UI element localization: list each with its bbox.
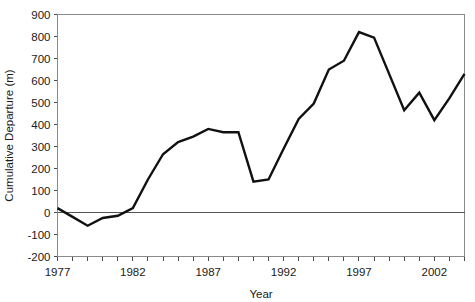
y-tick-label: 900 <box>31 9 50 21</box>
x-tick-label: 1992 <box>271 266 297 278</box>
y-tick-label: 600 <box>31 75 50 87</box>
x-tick-label: 1982 <box>120 266 146 278</box>
y-tick-label: -100 <box>27 229 50 241</box>
y-tick-label: 400 <box>31 119 50 131</box>
y-tick-label: 300 <box>31 141 50 153</box>
x-tick-label: 1977 <box>45 266 71 278</box>
x-tick-label: 1997 <box>346 266 372 278</box>
y-tick-label: 0 <box>44 207 50 219</box>
y-tick-label: 700 <box>31 53 50 65</box>
y-tick-label: 100 <box>31 185 50 197</box>
y-tick-label: 500 <box>31 97 50 109</box>
y-tick-label: 200 <box>31 163 50 175</box>
y-tick-label: -200 <box>27 251 50 263</box>
cumulative-departure-line-chart: 9008007006005004003002001000-100-200 197… <box>0 0 475 302</box>
x-tick-label: 2002 <box>422 266 448 278</box>
y-tick-label: 800 <box>31 31 50 43</box>
y-axis-title: Cumulative Departure (m) <box>3 69 15 201</box>
x-axis-title: Year <box>249 288 272 300</box>
x-tick-label: 1987 <box>195 266 221 278</box>
chart-container: 9008007006005004003002001000-100-200 197… <box>0 0 475 302</box>
